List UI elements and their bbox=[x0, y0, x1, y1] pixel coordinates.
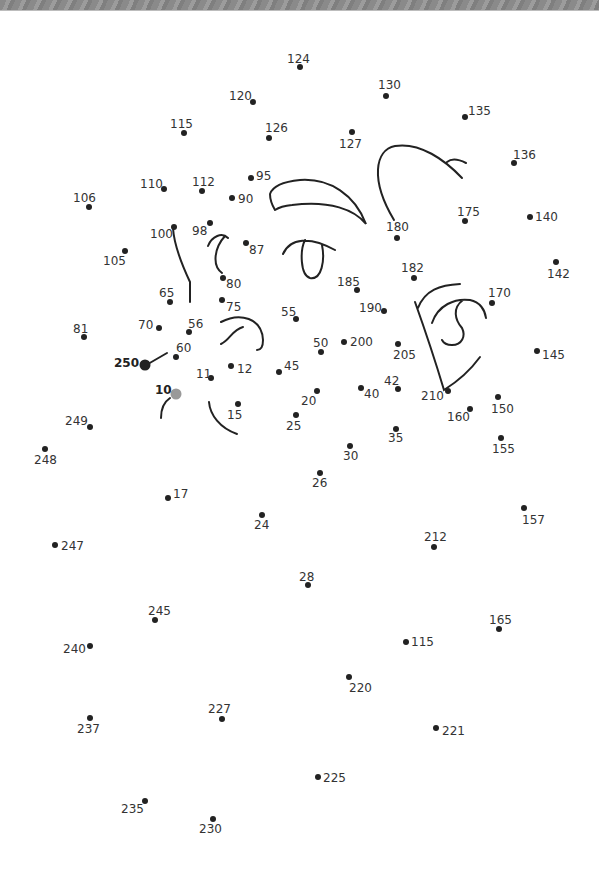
dot-label: 35 bbox=[388, 431, 403, 445]
dot-marker bbox=[489, 300, 495, 306]
dot-235: 235 bbox=[121, 798, 148, 816]
dot-label: 120 bbox=[229, 89, 252, 103]
dot-marker bbox=[403, 639, 409, 645]
dot-105: 105 bbox=[103, 248, 128, 268]
dot-marker bbox=[534, 348, 540, 354]
dot-87: 87 bbox=[243, 240, 264, 257]
dot-marker bbox=[431, 544, 437, 550]
dot-label: 205 bbox=[393, 348, 416, 362]
dot-label: 245 bbox=[148, 604, 171, 618]
dot-140: 140 bbox=[527, 210, 558, 224]
dot-marker bbox=[315, 774, 321, 780]
dot-17: 17 bbox=[165, 487, 188, 501]
dot-marker bbox=[394, 235, 400, 241]
dot-marker bbox=[433, 725, 439, 731]
dot-label: 106 bbox=[73, 191, 96, 205]
dot-12: 12 bbox=[228, 362, 252, 376]
dot-110: 110 bbox=[140, 177, 167, 192]
dot-marker bbox=[219, 716, 225, 722]
dot-136: 136 bbox=[511, 148, 536, 166]
dot-200: 200 bbox=[341, 335, 373, 349]
dot-label: 60 bbox=[176, 341, 191, 355]
ear-curve bbox=[208, 235, 228, 273]
dot-label: 105 bbox=[103, 254, 126, 268]
dot-label: 24 bbox=[254, 518, 269, 532]
cheek-left bbox=[148, 353, 167, 364]
dot-70: 70 bbox=[138, 318, 162, 332]
dot-190: 190 bbox=[359, 301, 387, 315]
dot-50: 50 bbox=[313, 336, 328, 355]
dot-label: 98 bbox=[192, 224, 207, 238]
dot-label: 250 bbox=[114, 356, 139, 370]
dot-106: 106 bbox=[73, 191, 96, 210]
dot-15: 15 bbox=[227, 401, 242, 422]
dot-label: 220 bbox=[349, 681, 372, 695]
chin-left bbox=[161, 398, 170, 418]
dot-127: 127 bbox=[339, 129, 362, 151]
dot-label: 140 bbox=[535, 210, 558, 224]
dot-marker bbox=[87, 715, 93, 721]
dot-marker bbox=[346, 674, 352, 680]
dot-label: 235 bbox=[121, 802, 144, 816]
dot-227: 227 bbox=[208, 702, 231, 722]
dot-95: 95 bbox=[248, 169, 271, 183]
dot-label: 200 bbox=[350, 335, 373, 349]
dot-label: 142 bbox=[547, 267, 570, 281]
dot-marker bbox=[207, 220, 213, 226]
dot-65: 65 bbox=[159, 286, 174, 305]
dot-label: 81 bbox=[73, 322, 88, 336]
dot-155: 155 bbox=[492, 435, 515, 456]
dot-label: 115 bbox=[411, 635, 434, 649]
dot-label: 110 bbox=[140, 177, 163, 191]
dot-label: 175 bbox=[457, 205, 480, 219]
dot-label: 80 bbox=[226, 277, 241, 291]
dot-81: 81 bbox=[73, 322, 88, 340]
dot-60: 60 bbox=[173, 341, 191, 360]
dot-marker bbox=[445, 388, 451, 394]
dot-marker bbox=[248, 175, 254, 181]
dot-165: 165 bbox=[489, 613, 512, 632]
dot-label: 55 bbox=[281, 305, 296, 319]
dot-marker bbox=[165, 495, 171, 501]
dot-label: 115 bbox=[170, 117, 193, 131]
dot-label: 230 bbox=[199, 822, 222, 836]
dot-label: 155 bbox=[492, 442, 515, 456]
mouth-curve bbox=[221, 317, 263, 350]
dot-160: 160 bbox=[447, 406, 473, 424]
dot-label: 75 bbox=[226, 300, 241, 314]
dot-98: 98 bbox=[192, 220, 213, 238]
dot-marker bbox=[229, 195, 235, 201]
dot-marker bbox=[553, 259, 559, 265]
dot-marker bbox=[52, 542, 58, 548]
dot-250: 250 bbox=[114, 356, 151, 371]
dot-label: 42 bbox=[384, 374, 399, 388]
dot-label: 170 bbox=[488, 286, 511, 300]
dot-marker bbox=[527, 214, 533, 220]
dot-212: 212 bbox=[424, 530, 447, 550]
dot-label: 50 bbox=[313, 336, 328, 350]
dot-35: 35 bbox=[388, 426, 403, 445]
dot-label: 100 bbox=[150, 227, 173, 241]
dot-marker bbox=[87, 643, 93, 649]
dot-marker bbox=[156, 325, 162, 331]
dot-label: 26 bbox=[312, 476, 327, 490]
dot-label: 212 bbox=[424, 530, 447, 544]
dot-182: 182 bbox=[401, 261, 424, 281]
dot-230: 230 bbox=[199, 816, 222, 836]
dot-label: 87 bbox=[249, 243, 264, 257]
dot-label: 30 bbox=[343, 449, 358, 463]
dot-220: 220 bbox=[346, 674, 372, 695]
dot-label: 40 bbox=[364, 387, 379, 401]
dot-marker bbox=[349, 129, 355, 135]
dot-label: 11 bbox=[196, 367, 211, 381]
dot-56: 56 bbox=[186, 317, 203, 335]
dot-label: 210 bbox=[421, 389, 444, 403]
dot-marker bbox=[521, 505, 527, 511]
right-eyebrow bbox=[378, 145, 466, 220]
dot-marker bbox=[219, 297, 225, 303]
dot-label: 130 bbox=[378, 78, 401, 92]
dot-label: 10 bbox=[155, 383, 172, 397]
dot-label: 17 bbox=[173, 487, 188, 501]
dot-label: 237 bbox=[77, 722, 100, 736]
dot-marker bbox=[495, 394, 501, 400]
